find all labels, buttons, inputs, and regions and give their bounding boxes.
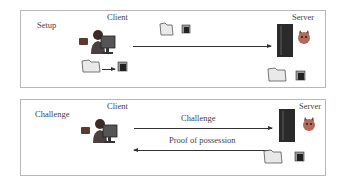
proof-flow-label: Proof of possession bbox=[169, 135, 236, 145]
phase-label: Challenge bbox=[35, 109, 69, 119]
file-folder-icon bbox=[267, 67, 287, 82]
tagged-file-icon bbox=[294, 151, 305, 162]
user-computer-icon bbox=[91, 116, 121, 146]
file-folder-icon bbox=[159, 22, 174, 36]
tagged-file-icon bbox=[295, 70, 306, 81]
challenge-panel: Challenge Client Server Challenge Proof … bbox=[20, 99, 326, 176]
proof-arrow bbox=[134, 150, 272, 151]
file-folder-icon bbox=[81, 59, 101, 73]
client-label: Client bbox=[107, 101, 128, 111]
challenge-arrow bbox=[134, 128, 272, 129]
server-label: Server bbox=[292, 12, 314, 22]
server-icon bbox=[277, 108, 297, 143]
phase-label: Setup bbox=[37, 20, 56, 30]
server-label: Server bbox=[299, 101, 321, 111]
encode-arrow bbox=[102, 69, 115, 70]
devil-icon bbox=[297, 30, 311, 44]
key-icon bbox=[81, 127, 90, 134]
setup-panel: Setup Client Server bbox=[20, 10, 326, 88]
user-computer-icon bbox=[89, 27, 119, 57]
challenge-flow-label: Challenge bbox=[181, 113, 215, 123]
tagged-file-icon bbox=[117, 61, 128, 72]
upload-arrow bbox=[133, 46, 271, 47]
file-folder-icon bbox=[263, 149, 283, 164]
tagged-file-icon bbox=[181, 24, 191, 34]
key-icon bbox=[79, 38, 88, 45]
devil-icon bbox=[302, 117, 316, 131]
server-icon bbox=[275, 23, 295, 58]
client-label: Client bbox=[107, 12, 128, 22]
